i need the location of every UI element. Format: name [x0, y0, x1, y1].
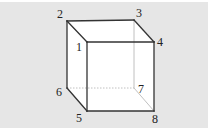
vertex-label-4: 4 [157, 35, 163, 49]
vertex-label-3: 3 [136, 6, 142, 20]
cube-diagram: 12345678 [0, 0, 208, 132]
vertex-label-1: 1 [76, 40, 82, 54]
cube-faces [67, 20, 154, 111]
vertex-label-5: 5 [76, 111, 82, 125]
vertex-label-2: 2 [57, 7, 63, 21]
vertex-label-8: 8 [152, 112, 158, 126]
front-face [87, 42, 154, 111]
vertex-label-6: 6 [56, 85, 62, 99]
vertex-label-7: 7 [138, 82, 144, 96]
